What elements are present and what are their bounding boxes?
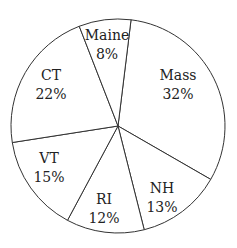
slice-label-ct: CT22% — [35, 66, 66, 104]
slice-name: NH — [146, 179, 177, 198]
slice-label-mass: Mass32% — [159, 66, 196, 104]
slice-name: Maine — [85, 26, 129, 45]
slice-label-vt: VT15% — [33, 149, 64, 187]
slice-percent: 15% — [33, 168, 64, 187]
slice-name: RI — [88, 190, 119, 209]
slice-label-nh: NH13% — [146, 179, 177, 217]
slice-percent: 12% — [88, 209, 119, 228]
slice-name: Mass — [159, 66, 196, 85]
slice-percent: 32% — [159, 85, 196, 104]
slice-percent: 22% — [35, 85, 66, 104]
slice-percent: 8% — [85, 45, 129, 64]
slice-name: VT — [33, 149, 64, 168]
slice-percent: 13% — [146, 198, 177, 217]
slice-label-maine: Maine8% — [85, 26, 129, 64]
slice-label-ri: RI12% — [88, 190, 119, 228]
slice-name: CT — [35, 66, 66, 85]
